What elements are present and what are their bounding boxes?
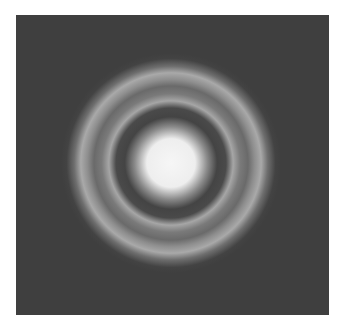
diffraction-image xyxy=(16,15,329,315)
ring-system xyxy=(61,53,281,273)
diffraction-pattern xyxy=(16,15,329,315)
